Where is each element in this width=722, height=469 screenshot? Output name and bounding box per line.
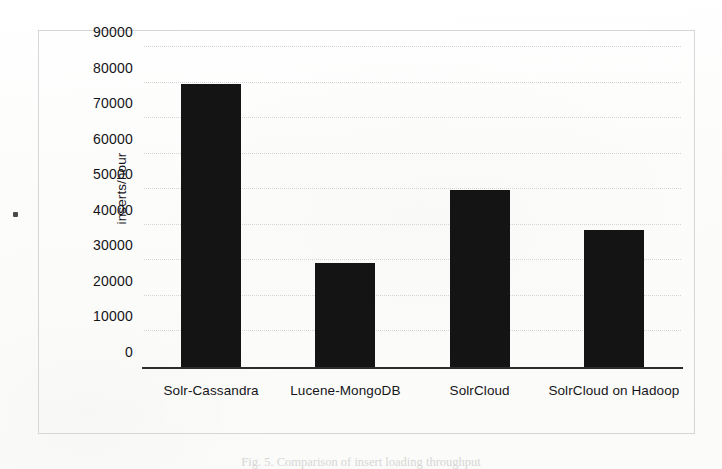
- x-label-slot: Solr-Cassandra: [144, 48, 278, 368]
- axis-baseline: [142, 367, 683, 369]
- y-axis-tick-label: 30000: [93, 237, 133, 253]
- figure-caption: Fig. 5. Comparison of insert loading thr…: [0, 455, 722, 469]
- x-axis-tick-label: Solr-Cassandra: [136, 381, 286, 400]
- y-axis-tick-label: 50000: [93, 166, 133, 182]
- y-axis-tick-label: 60000: [93, 130, 133, 146]
- y-axis-tick-label: 70000: [93, 95, 133, 111]
- scan-artifact-speck: [13, 212, 18, 217]
- y-axis-tick-label: 20000: [93, 273, 133, 289]
- x-axis-tick-label: Lucene-MongoDB: [270, 381, 420, 400]
- chart-frame: inserts/hour 010000200003000040000500006…: [38, 30, 695, 434]
- plot-area: 0100002000030000400005000060000700008000…: [144, 48, 681, 368]
- y-axis-tick-label: 10000: [93, 308, 133, 324]
- scanned-figure-page: inserts/hour 010000200003000040000500006…: [0, 0, 722, 469]
- x-label-slot: SolrCloud: [413, 48, 547, 368]
- y-axis-tick-label: 40000: [93, 201, 133, 217]
- x-label-slot: SolrCloud on Hadoop: [547, 48, 681, 368]
- y-axis-tick-label: 90000: [93, 24, 133, 40]
- x-axis-tick-label: SolrCloud: [405, 381, 555, 400]
- y-axis-tick-label: 0: [125, 344, 133, 360]
- x-axis-tick-label: SolrCloud on Hadoop: [539, 381, 689, 400]
- x-label-slot: Lucene-MongoDB: [278, 48, 412, 368]
- y-axis-tick-label: 80000: [93, 59, 133, 75]
